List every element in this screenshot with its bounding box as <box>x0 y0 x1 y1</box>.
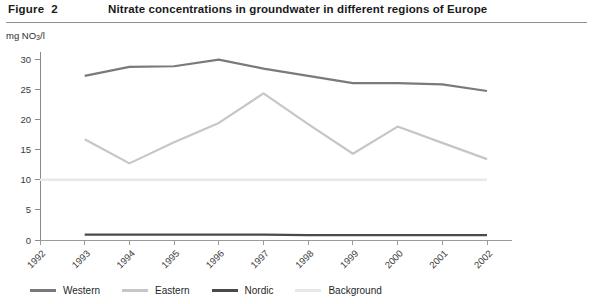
legend-swatch-icon <box>30 289 56 292</box>
x-tick-label: 1996 <box>203 248 226 271</box>
x-axis-ticks: 1992199319941995199619971998199920002001… <box>25 240 495 270</box>
x-tick-label: 1995 <box>159 248 182 271</box>
figure-title: Nitrate concentrations in groundwater in… <box>108 3 487 15</box>
y-tick-label: 0 <box>26 235 31 246</box>
legend-item-background: Background <box>295 285 381 296</box>
y-tick-label: 20 <box>20 114 31 125</box>
y-tick-label: 30 <box>20 54 31 65</box>
legend-label: Background <box>328 285 381 296</box>
x-tick-label: 1994 <box>114 248 137 271</box>
x-tick-label: 1997 <box>248 248 271 271</box>
legend-swatch-icon <box>122 289 148 292</box>
legend-item-nordic: Nordic <box>212 285 274 296</box>
line-chart-plot: 051015202530 199219931994199519961997199… <box>0 26 593 278</box>
y-tick-label: 25 <box>20 84 31 95</box>
legend-label: Nordic <box>245 285 274 296</box>
chart-legend: WesternEasternNordicBackground <box>0 280 593 300</box>
figure-header: Figure 2 Nitrate concentrations in groun… <box>0 0 593 22</box>
x-tick-label: 1992 <box>25 248 48 271</box>
legend-label: Western <box>63 285 100 296</box>
chart-area: mg NO3/l 051015202530 199219931994199519… <box>0 26 593 278</box>
x-tick-label: 1993 <box>69 248 92 271</box>
x-tick-label: 2001 <box>427 248 450 271</box>
legend-item-eastern: Eastern <box>122 285 189 296</box>
header-divider <box>6 22 587 23</box>
series-line-western <box>85 60 487 91</box>
data-series-group <box>40 60 487 236</box>
y-tick-label: 15 <box>20 144 31 155</box>
figure-label: Figure 2 <box>8 3 58 15</box>
y-tick-label: 10 <box>20 174 31 185</box>
legend-swatch-icon <box>212 289 238 292</box>
x-tick-label: 1998 <box>293 248 316 271</box>
y-axis-ticks: 051015202530 <box>20 54 40 246</box>
legend-item-western: Western <box>30 285 100 296</box>
x-tick-label: 1999 <box>338 248 361 271</box>
series-line-nordic <box>85 235 487 236</box>
x-tick-label: 2002 <box>472 248 495 271</box>
legend-swatch-icon <box>295 289 321 292</box>
series-line-eastern <box>85 93 487 163</box>
y-tick-label: 5 <box>26 204 31 215</box>
legend-label: Eastern <box>155 285 189 296</box>
x-tick-label: 2000 <box>382 248 405 271</box>
